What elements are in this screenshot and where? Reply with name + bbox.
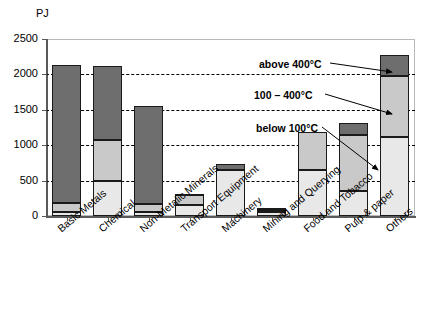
y-tick-label: 1500	[0, 103, 38, 115]
y-tick-mark	[42, 181, 47, 182]
y-tick-label: 2500	[0, 32, 38, 44]
bar-segment	[380, 55, 409, 76]
y-tick-mark	[42, 216, 47, 217]
y-tick-label: 0	[0, 209, 38, 221]
y-tick-mark	[42, 145, 47, 146]
bar-segment	[93, 66, 122, 140]
y-tick-label: 2000	[0, 67, 38, 79]
bar-segment	[216, 164, 245, 170]
y-tick-mark	[42, 74, 47, 75]
bar-segment	[339, 123, 368, 136]
annotation-100-400c: 100 – 400°C	[254, 89, 313, 101]
y-tick-label: 500	[0, 174, 38, 186]
y-tick-mark	[42, 110, 47, 111]
y-axis-unit-label: PJ	[36, 7, 49, 19]
annotation-above-400c: above 400°C	[259, 58, 322, 70]
bar-basic-metals	[52, 39, 81, 216]
bar-segment	[380, 76, 409, 137]
y-tick-label: 1000	[0, 138, 38, 150]
annotation-below-100c: below 100°C	[256, 122, 318, 134]
bar-non-metalic-minerals	[134, 39, 163, 216]
bar-segment	[52, 65, 81, 203]
bar-segment	[93, 140, 122, 181]
chart-container: PJ 05001000150020002500 Basic MetalsChem…	[0, 0, 436, 323]
bar-segment	[298, 132, 327, 170]
y-tick-mark	[42, 39, 47, 40]
bar-segment	[134, 106, 163, 204]
y-axis-line	[46, 39, 48, 217]
